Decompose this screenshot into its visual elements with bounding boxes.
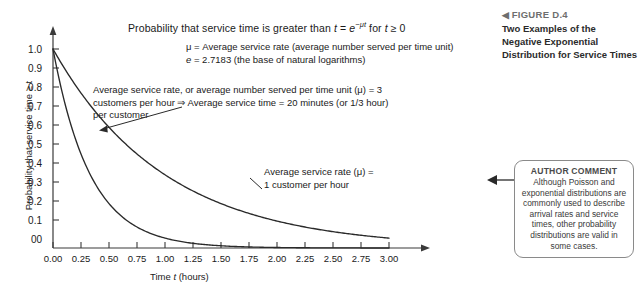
author-comment-title: AUTHOR COMMENT xyxy=(521,166,627,176)
figure-caption-text: Two Examples of the Negative Exponential… xyxy=(502,23,637,60)
mu1-leader-line xyxy=(250,178,262,189)
figure-number-label: FIGURE D.4 xyxy=(512,9,568,20)
x-axis-ticks xyxy=(53,242,389,248)
author-comment-text: Although Poisson and exponential distrib… xyxy=(521,177,627,251)
mu3-leader-line xyxy=(103,107,182,129)
sidebar: ◀ FIGURE D.4 Two Examples of the Negativ… xyxy=(496,0,640,294)
y-axis-arrowhead xyxy=(50,26,57,35)
mu3-leader-arrowhead xyxy=(99,126,108,133)
author-comment-box: AUTHOR COMMENT Although Poisson and expo… xyxy=(514,160,634,258)
x-axis-arrowhead xyxy=(421,245,430,252)
figure-page: Probability that service time is greater… xyxy=(0,0,640,294)
chart-panel: Probability that service time is greater… xyxy=(0,0,470,294)
curve-mu-1-exact xyxy=(53,49,389,238)
figure-caption: ◀ FIGURE D.4 Two Examples of the Negativ… xyxy=(502,8,638,61)
plot-canvas xyxy=(0,0,470,294)
curve-mu-3 xyxy=(53,49,389,248)
figure-pointer-icon: ◀ xyxy=(502,10,509,20)
